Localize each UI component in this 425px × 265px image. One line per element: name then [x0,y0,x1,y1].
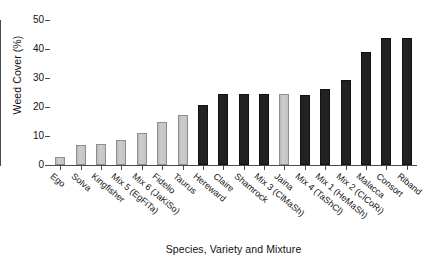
bar [116,140,126,165]
bar [96,144,106,165]
x-tick-mark [325,166,326,170]
x-tick-mark [386,166,387,170]
x-tick-mark [81,166,82,170]
x-tick-mark [407,166,408,170]
x-tick-mark [121,166,122,170]
bar [320,89,330,165]
y-tick-label: 30 [22,73,44,83]
x-tick-mark [142,166,143,170]
bar [76,145,86,165]
x-tick-mark [284,166,285,170]
bar [259,94,269,165]
y-tick-mark [45,107,50,108]
weed-cover-bar-chart: Weed Cover (%) 01020304050 EgoSolvaKingf… [0,0,425,265]
x-axis-tick-labels: EgoSolvaKingfisherMix 5 (EgFiTa)Mix 6 (J… [50,171,417,241]
x-tick-mark [183,166,184,170]
y-tick-mark [45,78,50,79]
bar [402,38,412,165]
y-tick-mark [45,49,50,50]
y-axis-line [0,20,1,166]
bar [361,52,371,165]
y-tick-mark [45,20,50,21]
x-tick-label: Solva [69,171,93,193]
x-axis-line [50,165,417,166]
y-tick-label: 40 [22,44,44,54]
bar [239,94,249,165]
bar [341,80,351,165]
y-tick-label: 50 [22,15,44,25]
bar [178,115,188,165]
x-tick-mark [101,166,102,170]
bar [137,133,147,165]
bar [198,105,208,165]
bar [300,95,310,165]
y-tick-mark [45,165,50,166]
bar [157,122,167,165]
bar [279,94,289,165]
bar [55,157,65,165]
x-tick-label: Ego [49,171,68,189]
x-tick-mark [223,166,224,170]
x-tick-mark [366,166,367,170]
y-axis-tick-labels: 01020304050 [22,0,44,265]
y-tick-label: 0 [22,160,44,170]
x-axis-title: Species, Variety and Mixture [50,243,417,255]
x-tick-mark [162,166,163,170]
y-tick-mark [45,136,50,137]
x-tick-mark [60,166,61,170]
bars-layer [50,20,417,165]
bar [381,38,391,165]
y-tick-label: 20 [22,102,44,112]
x-tick-mark [203,166,204,170]
x-tick-mark [305,166,306,170]
x-tick-mark [346,166,347,170]
y-tick-label: 10 [22,131,44,141]
x-tick-mark [264,166,265,170]
bar [218,94,228,165]
x-tick-mark [244,166,245,170]
